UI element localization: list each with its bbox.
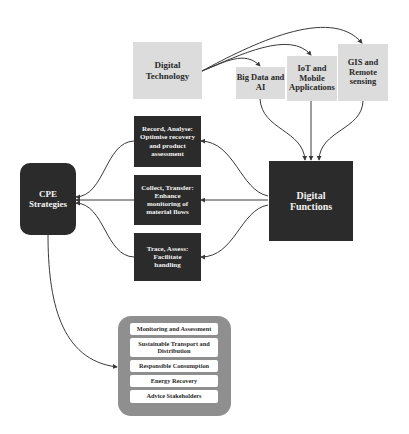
function-box-record: Record, Analyse: Optimise recovery and p… <box>134 116 201 167</box>
function-label: Record, Analyse: Optimise recovery and p… <box>137 125 198 157</box>
arrow-record-to-cpe <box>76 141 134 197</box>
strategy-label: Advice Stakeholders <box>146 393 201 400</box>
strategy-label: Sustainable Transport and Distribution <box>130 341 218 355</box>
tech-box-gis: GIS and Remote sensing <box>338 44 388 101</box>
function-label: Trace, Assess: Facilitate handling <box>142 245 193 269</box>
function-label: Collect, Transfer: Enhance monitoring of… <box>137 184 198 216</box>
tech-label: IoT and Mobile Applications <box>287 64 337 93</box>
strategy-label: Energy Recovery <box>151 378 197 385</box>
strategy-item: Responsible Consumption <box>130 360 218 372</box>
arrow-gis-to-df <box>319 101 363 160</box>
strategy-label: Responsible Consumption <box>139 363 209 370</box>
digital-technology-box: Digital Technology <box>133 42 202 99</box>
digital-functions-label: Digital Functions <box>287 190 335 213</box>
arrow-cpe-to-strategies <box>48 234 117 367</box>
tech-box-big-data: Big Data and AI <box>236 67 285 99</box>
arrow-trace-to-cpe <box>76 203 134 257</box>
function-box-collect: Collect, Transfer: Enhance monitoring of… <box>134 175 201 225</box>
tech-label: Big Data and AI <box>236 73 285 93</box>
strategy-item: Monitoring and Assessment <box>130 323 218 335</box>
strategies-container: Monitoring and Assessment Sustainable Tr… <box>118 316 231 416</box>
cpe-strategies-box: CPE Strategies <box>20 163 76 235</box>
strategy-item: Sustainable Transport and Distribution <box>130 338 218 357</box>
tech-box-iot: IoT and Mobile Applications <box>287 56 337 101</box>
arrow-df-to-trace <box>201 205 268 257</box>
function-box-trace: Trace, Assess: Facilitate handling <box>134 233 201 281</box>
tech-label: GIS and Remote sensing <box>344 58 382 87</box>
strategy-item: Advice Stakeholders <box>130 390 218 403</box>
arrow-df-to-record <box>201 141 268 196</box>
strategy-label: Monitoring and Assessment <box>137 326 212 333</box>
digital-technology-label: Digital Technology <box>133 60 202 81</box>
strategy-item: Energy Recovery <box>130 375 218 387</box>
arrow-bigdata-to-df <box>260 99 305 160</box>
digital-functions-box: Digital Functions <box>269 161 353 241</box>
cpe-strategies-label: CPE Strategies <box>28 189 68 210</box>
